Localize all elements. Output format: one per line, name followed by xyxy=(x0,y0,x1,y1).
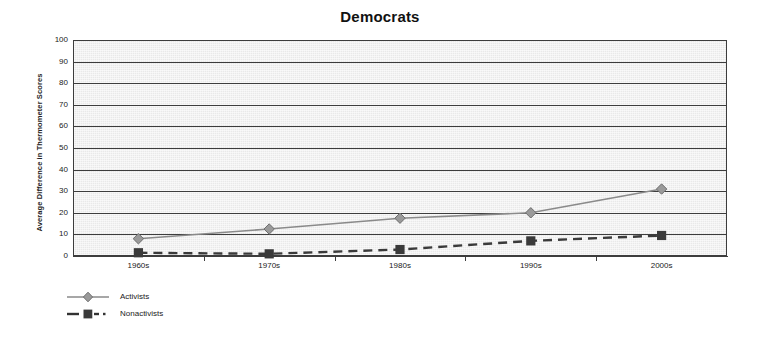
data-point-marker xyxy=(526,208,536,218)
data-point-marker xyxy=(133,234,143,244)
legend-marker-square-icon xyxy=(66,307,110,321)
data-point-marker xyxy=(265,249,274,258)
legend-label-activists: Activists xyxy=(120,292,149,301)
data-point-marker xyxy=(134,248,143,257)
data-point-marker xyxy=(656,184,666,194)
chart-figure: Democrats Average Difference in Thermome… xyxy=(0,0,760,340)
data-point-marker xyxy=(395,213,405,223)
legend-item-nonactivists[interactable]: Nonactivists xyxy=(66,305,326,322)
data-point-marker xyxy=(526,236,535,245)
data-point-marker xyxy=(395,245,404,254)
data-point-marker xyxy=(657,231,666,240)
legend-marker-diamond-icon xyxy=(66,290,110,304)
data-point-marker xyxy=(264,224,274,234)
legend-label-nonactivists: Nonactivists xyxy=(120,309,163,318)
chart-legend: Activists Nonactivists xyxy=(66,288,326,322)
legend-item-activists[interactable]: Activists xyxy=(66,288,326,305)
